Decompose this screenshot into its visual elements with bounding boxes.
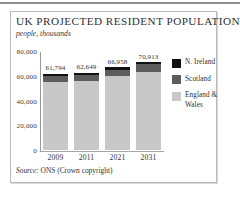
chart-subtitle: people, thousands xyxy=(16,29,71,38)
legend-label: England & Wales xyxy=(185,91,218,110)
x-axis-tick-label: 2021 xyxy=(110,153,126,162)
stacked-bar[interactable]: 62,6492011 xyxy=(74,72,99,150)
x-axis-tick-label: 2009 xyxy=(48,153,64,162)
legend-swatch-icon xyxy=(172,59,181,68)
chart-title: UK PROJECTED RESIDENT POPULATION xyxy=(16,15,240,27)
bar-total-label: 70,913 xyxy=(139,53,159,61)
chart-legend: N. IrelandScotlandEngland & Wales xyxy=(172,58,218,117)
bar-segment-scotland[interactable] xyxy=(105,70,130,77)
bar-segment-england-wales[interactable] xyxy=(105,76,130,150)
top-rule-divider xyxy=(0,2,240,4)
stacked-bar[interactable]: 66,9582021 xyxy=(105,67,130,150)
y-axis-tick-label: 40,000 xyxy=(17,98,37,106)
x-axis-tick-label: 2031 xyxy=(141,153,157,162)
bar-total-label: 61,794 xyxy=(46,64,66,72)
source-note: Source: ONS (Crown copyright) xyxy=(16,166,112,175)
bar-segment-england-wales[interactable] xyxy=(74,81,99,150)
stacked-bar[interactable]: 70,9132031 xyxy=(136,62,161,150)
legend-swatch-icon xyxy=(172,92,181,101)
stacked-bar[interactable]: 61,7942009 xyxy=(43,74,68,150)
legend-label: N. Ireland xyxy=(185,58,215,68)
bar-total-label: 66,958 xyxy=(108,58,128,66)
source-label: Source: xyxy=(16,166,39,175)
x-axis-tick-label: 2011 xyxy=(79,153,95,162)
legend-item[interactable]: Scotland xyxy=(172,75,218,85)
legend-item[interactable]: England & Wales xyxy=(172,91,218,110)
plot-area: 020,00040,00060,00080,000 61,794200962,6… xyxy=(40,52,163,151)
legend-swatch-icon xyxy=(172,75,181,84)
figure-page: UK PROJECTED RESIDENT POPULATION people,… xyxy=(0,0,240,198)
y-axis-tick-label: 80,000 xyxy=(17,48,37,56)
legend-item[interactable]: N. Ireland xyxy=(172,58,218,68)
bar-segment-england-wales[interactable] xyxy=(136,72,161,150)
x-axis-line xyxy=(40,151,164,152)
y-axis-tick-label: 0 xyxy=(33,147,37,155)
bar-segment-scotland[interactable] xyxy=(136,64,161,71)
y-axis-line xyxy=(40,52,41,152)
y-axis-tick-label: 60,000 xyxy=(17,73,37,81)
source-text: ONS (Crown copyright) xyxy=(41,166,113,175)
y-axis-tick-label: 20,000 xyxy=(17,122,37,130)
bar-total-label: 62,649 xyxy=(77,63,97,71)
bar-segment-england-wales[interactable] xyxy=(43,82,68,150)
legend-label: Scotland xyxy=(185,75,211,85)
